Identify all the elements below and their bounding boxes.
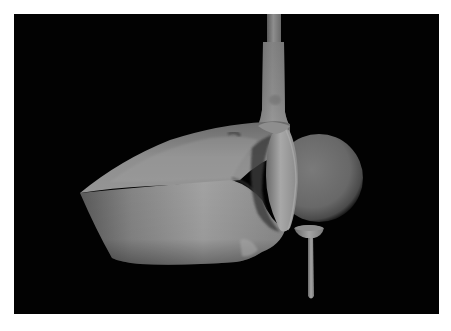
club-head: [80, 121, 298, 264]
club-shaft: [258, 14, 290, 126]
golf-render-scene: [0, 0, 451, 331]
golf-tee: [294, 225, 324, 299]
